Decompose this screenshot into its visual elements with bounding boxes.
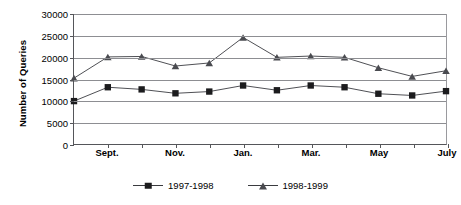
legend-sample	[133, 180, 163, 191]
data-point-square-marker	[138, 86, 144, 92]
x-axis-tick-label: Jan.	[233, 147, 252, 158]
x-axis-tick-label: May	[370, 147, 388, 158]
y-axis-title-label: Number of Queries	[18, 39, 29, 126]
y-axis-tick-label: 25000	[28, 30, 68, 41]
square-marker-icon	[145, 182, 152, 189]
gridline	[74, 80, 446, 81]
x-axis-tick-labels: Sept.Nov.Jan.Mar.MayJuly	[73, 147, 447, 165]
legend-entry[interactable]: 1997-1998	[133, 180, 213, 191]
y-axis-tick	[70, 80, 74, 81]
legend-sample	[248, 180, 278, 191]
y-axis-tick-label: 15000	[28, 74, 68, 85]
data-point-square-marker	[443, 88, 449, 94]
legend-label: 1997-1998	[168, 180, 213, 191]
y-axis-tick	[70, 145, 74, 146]
data-point-square-marker	[172, 90, 178, 96]
series-line	[74, 86, 446, 102]
y-axis-tick	[70, 123, 74, 124]
gridline	[74, 123, 446, 124]
y-axis-tick-label: 30000	[28, 9, 68, 20]
data-point-square-marker	[375, 91, 381, 97]
y-axis-tick-label: 20000	[28, 52, 68, 63]
gridline	[74, 14, 446, 15]
y-axis-tick-labels: 050001000015000200002500030000	[28, 0, 68, 205]
data-point-square-marker	[409, 92, 415, 98]
y-axis-tick	[70, 36, 74, 37]
data-point-square-marker	[206, 88, 212, 94]
y-axis-tick	[70, 14, 74, 15]
chart-legend: 1997-19981998-1999	[0, 180, 461, 191]
x-axis-tick-label: July	[437, 147, 456, 158]
legend-label: 1998-1999	[283, 180, 328, 191]
legend-entry[interactable]: 1998-1999	[248, 180, 328, 191]
gridline	[74, 101, 446, 102]
gridline	[74, 36, 446, 37]
data-point-triangle-marker	[375, 64, 383, 71]
y-axis-tick	[70, 101, 74, 102]
y-axis-tick-label: 10000	[28, 96, 68, 107]
data-point-square-marker	[105, 84, 111, 90]
data-point-square-marker	[274, 87, 280, 93]
data-point-square-marker	[341, 84, 347, 90]
gridline	[74, 58, 446, 59]
triangle-marker-icon	[259, 182, 267, 189]
data-point-square-marker	[308, 82, 314, 88]
x-axis-tick-label: Mar.	[301, 147, 320, 158]
chart-screenshot: Number of Queries 0500010000150002000025…	[0, 0, 461, 205]
data-point-square-marker	[240, 82, 246, 88]
y-axis-tick	[70, 58, 74, 59]
x-axis-tick-label: Sept.	[95, 147, 118, 158]
plot-area	[73, 14, 447, 145]
x-axis-tick-label: Nov.	[165, 147, 185, 158]
y-axis-tick-label: 0	[28, 140, 68, 151]
y-axis-tick-label: 5000	[28, 118, 68, 129]
